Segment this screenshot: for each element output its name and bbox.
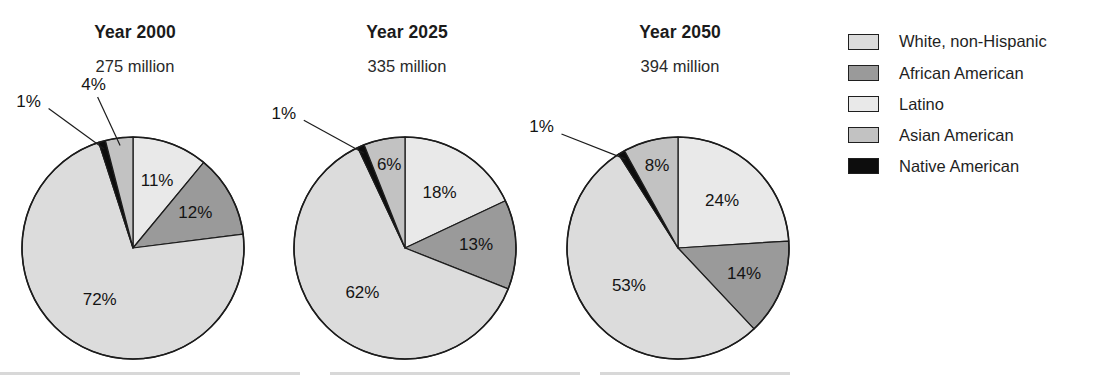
pie-slice-label: 18% [422, 183, 456, 202]
legend-item-label: White, non-Hispanic [899, 33, 1047, 50]
pie-chart-figure: Year 2000275 million11%12%72%1%4%Year 20… [0, 0, 1111, 375]
pie-slice-label: 12% [178, 203, 212, 222]
pie-slice-label: 13% [459, 235, 493, 254]
pie-label-leader-line [98, 97, 121, 146]
pie-label-leader-line [49, 109, 105, 149]
pie-panel-1: Year 2025335 million18%13%62%1%6% [272, 0, 542, 375]
pie-panel-0: Year 2000275 million11%12%72%1%4% [0, 0, 270, 375]
legend-swatch-icon [848, 34, 879, 50]
pie-svg: 24%14%53%1%8% [545, 96, 815, 375]
pie-svg: 18%13%62%1%6% [272, 96, 542, 375]
pie-slice-label-outer: 1% [16, 92, 41, 111]
chart-legend: White, non-HispanicAfrican AmericanLatin… [848, 26, 1103, 182]
legend-item-label: Native American [899, 158, 1019, 175]
pie-svg: 11%12%72%1%4% [0, 96, 270, 375]
pie-slice-label: 11% [141, 171, 174, 190]
pie-slice-label: 53% [612, 276, 646, 295]
legend-swatch-icon [848, 96, 879, 112]
legend-item: African American [848, 57, 1103, 88]
legend-item-label: Latino [899, 96, 944, 113]
legend-item: Latino [848, 88, 1103, 119]
pie-slice-label-outer: 4% [81, 75, 106, 94]
legend-item-label: Asian American [899, 127, 1014, 144]
legend-item: Asian American [848, 120, 1103, 151]
pie-slice-label: 24% [705, 191, 739, 210]
pie-label-leader-line [562, 134, 626, 159]
legend-swatch-icon [848, 158, 879, 174]
pie-slice-label-outer: 1% [272, 104, 297, 123]
legend-item: Native American [848, 151, 1103, 182]
pie-panel-title: Year 2000 [0, 22, 270, 43]
legend-item: White, non-Hispanic [848, 26, 1103, 57]
legend-swatch-icon [848, 65, 879, 81]
pie-panel-subtitle: 394 million [545, 57, 815, 76]
pie-panel-subtitle: 275 million [0, 57, 270, 76]
pie-slice-label: 6% [377, 155, 402, 174]
pie-slice-label-outer: 1% [529, 117, 554, 136]
pie-slice-label: 8% [645, 156, 670, 175]
legend-item-label: African American [899, 65, 1024, 82]
pie-slice-label: 14% [727, 264, 761, 283]
pie-slice-label: 62% [345, 283, 379, 302]
legend-swatch-icon [848, 127, 879, 143]
pie-label-leader-line [304, 120, 364, 153]
pie-panel-subtitle: 335 million [272, 57, 542, 76]
pie-panel-title: Year 2050 [545, 22, 815, 43]
pie-panel-title: Year 2025 [272, 22, 542, 43]
pie-panel-2: Year 2050394 million24%14%53%1%8% [545, 0, 815, 375]
pie-slice-label: 72% [83, 290, 117, 309]
